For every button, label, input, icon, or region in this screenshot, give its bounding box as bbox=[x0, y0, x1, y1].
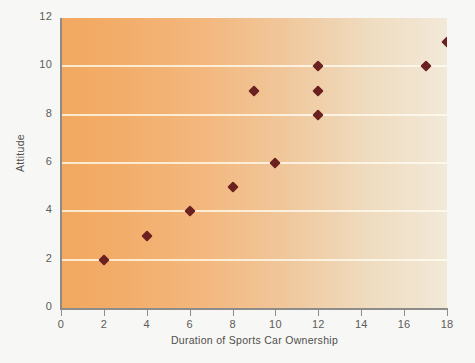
x-axis-line bbox=[61, 308, 448, 310]
data-point bbox=[227, 181, 238, 192]
x-axis-tick bbox=[147, 310, 148, 316]
y-axis-tick-label: 12 bbox=[14, 10, 52, 22]
x-axis-tick-label: 4 bbox=[127, 318, 167, 330]
scatter-plot-figure: Duration of Sports Car Ownership Attitud… bbox=[0, 0, 475, 363]
x-axis-tick-label: 10 bbox=[255, 318, 295, 330]
x-axis-tick-label: 2 bbox=[84, 318, 124, 330]
x-axis-tick bbox=[104, 310, 105, 316]
x-axis-tick-label: 14 bbox=[341, 318, 381, 330]
y-axis-tick-label: 6 bbox=[14, 155, 52, 167]
data-point bbox=[420, 61, 431, 72]
data-point bbox=[248, 85, 259, 96]
x-axis-tick bbox=[275, 310, 276, 316]
y-axis-tick-label: 8 bbox=[14, 107, 52, 119]
y-axis-tick-label: 10 bbox=[14, 58, 52, 70]
data-point bbox=[441, 36, 447, 47]
x-axis-tick bbox=[404, 310, 405, 316]
gridline bbox=[61, 114, 447, 116]
x-axis-tick-label: 16 bbox=[384, 318, 424, 330]
x-axis-tick bbox=[61, 310, 62, 316]
x-axis-tick-label: 18 bbox=[427, 318, 467, 330]
x-axis-tick bbox=[318, 310, 319, 316]
x-axis-tick bbox=[361, 310, 362, 316]
y-axis-title: Attitude bbox=[14, 108, 26, 198]
data-point bbox=[270, 157, 281, 168]
data-point bbox=[313, 109, 324, 120]
gridline bbox=[61, 162, 447, 164]
x-axis-tick-label: 0 bbox=[41, 318, 81, 330]
x-axis-tick-label: 6 bbox=[170, 318, 210, 330]
x-axis-tick bbox=[190, 310, 191, 316]
y-axis-line bbox=[60, 18, 62, 310]
y-axis-tick-label: 4 bbox=[14, 203, 52, 215]
gridline bbox=[61, 210, 447, 212]
x-axis-tick bbox=[447, 310, 448, 316]
x-axis-title: Duration of Sports Car Ownership bbox=[61, 334, 448, 346]
x-axis-tick bbox=[233, 310, 234, 316]
data-point bbox=[184, 206, 195, 217]
data-point bbox=[141, 230, 152, 241]
plot-area bbox=[61, 18, 447, 308]
data-point bbox=[313, 85, 324, 96]
x-axis-tick-label: 12 bbox=[298, 318, 338, 330]
gridline bbox=[61, 259, 447, 261]
y-axis-tick-label: 0 bbox=[14, 300, 52, 312]
data-point bbox=[98, 254, 109, 265]
data-point bbox=[313, 61, 324, 72]
gridline bbox=[61, 65, 447, 67]
x-axis-tick-label: 8 bbox=[213, 318, 253, 330]
y-axis-tick-label: 2 bbox=[14, 252, 52, 264]
